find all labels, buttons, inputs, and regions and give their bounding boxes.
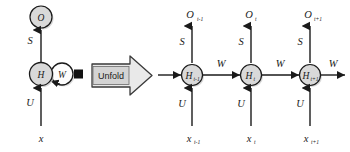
unfolded-output-sub-1: t	[255, 16, 257, 22]
folded-output-label: O	[38, 13, 45, 23]
folded-hidden-label: H	[37, 70, 46, 80]
unfolded-input-base-2: x	[303, 133, 309, 144]
unfolded-output-sub-2: t+1	[314, 16, 322, 22]
diagram-canvas: O S W H U x Unfold	[0, 0, 350, 152]
folded-weight-u-label: U	[26, 97, 35, 108]
unfolded-hidden-base-0: H	[185, 71, 194, 81]
unfolded-weight-w-outgoing: W	[329, 58, 339, 69]
unfolded-weight-s-0: S	[179, 36, 185, 47]
unfolded-output-base-0: O	[186, 9, 194, 20]
unfolded-step-0: O t-1 S H t-1 U x t-1 W	[178, 9, 240, 145]
unfolded-weight-u-2: U	[296, 98, 305, 109]
folded-recurrent-label: W	[58, 70, 67, 80]
unfolded-hidden-base-2: H	[302, 71, 311, 81]
unfolded-weight-s-1: S	[238, 36, 244, 47]
square-delay-marker	[74, 70, 83, 79]
unfolded-output-base-2: O	[304, 9, 312, 20]
unfolded-weight-w-1: W	[276, 58, 286, 69]
folded-weight-s-label: S	[27, 35, 33, 46]
unfolded-hidden-sub-2: t+1	[311, 76, 319, 82]
unfolded-input-sub-1: t	[254, 139, 256, 145]
unfolded-output-sub-0: t-1	[197, 16, 203, 22]
rnn-unfold-diagram: O S W H U x Unfold	[0, 0, 350, 152]
unfolded-hidden-base-1: H	[245, 71, 254, 81]
unfolded-weight-s-2: S	[297, 36, 303, 47]
folded-recurrent-node: W	[51, 63, 75, 87]
folded-output-node: O	[30, 6, 54, 30]
unfolded-output-base-1: O	[245, 9, 253, 20]
unfolded-input-base-1: x	[246, 133, 252, 144]
unfold-label: Unfold	[98, 71, 124, 81]
unfolded-input-base-0: x	[186, 133, 192, 144]
unfolded-weight-u-1: U	[237, 98, 246, 109]
unfold-arrow: Unfold	[92, 56, 152, 95]
unfolded-step-2: O t+1 S H t+1 U x t+1	[296, 9, 322, 145]
unfolded-input-sub-2: t+1	[311, 139, 319, 145]
unfolded-weight-w-0: W	[217, 58, 227, 69]
unfolded-hidden-sub-0: t-1	[194, 76, 200, 82]
unfolded-input-sub-0: t-1	[194, 139, 200, 145]
unfolded-weight-u-0: U	[178, 98, 187, 109]
folded-hidden-node: H	[30, 63, 55, 88]
unfolded-step-1: O t S H t U x t W	[237, 9, 299, 145]
folded-input-label: x	[38, 133, 44, 144]
